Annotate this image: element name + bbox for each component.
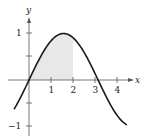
- x-tick-label-1: 1: [49, 85, 55, 95]
- y-axis-arrow-icon: [27, 17, 31, 23]
- x-tick-label-3: 3: [93, 85, 99, 95]
- y-axis-label: y: [25, 5, 32, 15]
- y-tick-label-minus1: −1: [8, 121, 21, 131]
- x-axis-arrow-icon: [128, 78, 134, 82]
- y-tick-label-1: 1: [16, 28, 22, 38]
- x-tick-label-2: 2: [71, 85, 77, 95]
- x-axis-label: x: [135, 75, 140, 85]
- x-tick-label-4: 4: [115, 85, 121, 95]
- sine-chart: 1 2 3 4 1 −1 x y: [0, 0, 141, 136]
